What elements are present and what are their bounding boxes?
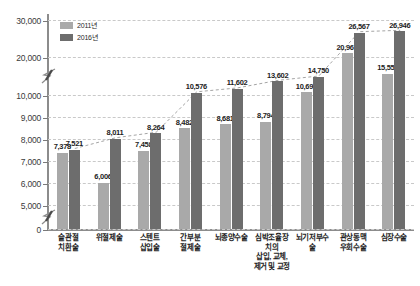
- x-axis-label: 스텐트삽입술: [129, 233, 170, 283]
- x-axis-label: 슬관절치환술: [48, 233, 89, 283]
- x-axis-label: 위절제술: [89, 233, 130, 283]
- bar-group: 10,69314,750: [292, 14, 333, 229]
- bar-2016: 26,567: [354, 33, 365, 229]
- bar-group: 20,96326,567: [333, 14, 374, 229]
- legend: 2011년 2016년: [56, 17, 103, 45]
- bar-group: 8,48210,576: [170, 14, 211, 229]
- bar-2016: 10,576: [191, 93, 202, 229]
- x-axis-label: 관상동맥우회수술: [333, 233, 374, 283]
- x-axis-label: 심장수술: [373, 233, 414, 283]
- x-axis-label: 심박조율장치의삽입, 교체,제거 및 교정: [251, 233, 292, 283]
- bar-2016: 11,602: [232, 89, 243, 229]
- y-axis-tick-label: 5,000: [21, 201, 41, 211]
- plot-area: 30,00020,00010,0009,0008,0007,0006,0005,…: [48, 14, 414, 229]
- bar-value-label: 10,576: [186, 82, 207, 91]
- legend-label-2016: 2016년: [77, 32, 98, 42]
- bar-value-label: 11,602: [227, 78, 248, 87]
- y-axis-tick-label: 6,000: [21, 179, 41, 189]
- bar-value-label: 8,011: [107, 128, 124, 137]
- bar-2016: 7,521: [69, 150, 80, 229]
- bar-2016: 13,602: [272, 81, 283, 229]
- y-axis-tick-label: 9,000: [21, 113, 41, 123]
- legend-item-2011: 2011년: [60, 20, 98, 30]
- legend-item-2016: 2016년: [60, 32, 98, 42]
- bar-value-label: 13,602: [267, 71, 288, 80]
- legend-label-2011: 2011년: [77, 20, 97, 30]
- bar-group: 7,4588,264: [129, 14, 170, 229]
- y-axis-tick-label: 20,000: [16, 53, 41, 63]
- bar-value-label: 7,521: [66, 139, 83, 148]
- x-axis-label: 간부분절제술: [170, 233, 211, 283]
- y-axis-tick-label: 10,000: [16, 91, 41, 101]
- bar-2011: 7,378: [57, 153, 68, 229]
- bar-value-label: 14,750: [308, 66, 329, 75]
- legend-swatch-2011: [60, 22, 73, 29]
- bar-group: 6,0068,011: [89, 14, 130, 229]
- bar-2011: 20,963: [342, 53, 353, 229]
- x-axis-labels: 슬관절치환술위절제술스텐트삽입술간부분절제술뇌종양수술심박조율장치의삽입, 교체…: [48, 233, 414, 283]
- bar-2011: 15,557: [382, 74, 393, 229]
- legend-swatch-2016: [60, 34, 73, 41]
- axis-break-icon: [41, 208, 57, 226]
- axis-break-icon: [41, 67, 57, 85]
- y-axis-tick: [43, 230, 48, 231]
- gridline: 0: [48, 229, 414, 230]
- bar-chart: 30,00020,00010,0009,0008,0007,0006,0005,…: [0, 0, 420, 286]
- bar-2011: 10,693: [301, 92, 312, 229]
- bar-value-label: 26,567: [348, 22, 369, 31]
- bar-2011: 7,458: [138, 151, 149, 229]
- bar-2016: 8,264: [150, 133, 161, 229]
- bar-group: 8,79413,602: [251, 14, 292, 229]
- bar-group: 15,55726,946: [373, 14, 414, 229]
- bar-2016: 8,011: [110, 139, 121, 229]
- y-axis-tick-label: 0: [36, 225, 41, 235]
- bar-2016: 26,946: [394, 31, 405, 229]
- bar-2011: 8,482: [179, 128, 190, 229]
- bar-2011: 8,794: [260, 122, 271, 229]
- bar-value-label: 26,946: [389, 21, 410, 30]
- bar-2016: 14,750: [313, 77, 324, 229]
- bar-groups: 7,3787,5216,0068,0117,4588,2648,48210,57…: [48, 14, 414, 229]
- bar-group: 7,3787,521: [48, 14, 89, 229]
- bar-value-label: 8,264: [147, 123, 164, 132]
- y-axis-tick-label: 7,000: [21, 157, 41, 167]
- bar-2011: 8,681: [220, 124, 231, 229]
- y-axis-tick-label: 30,000: [16, 16, 41, 26]
- x-axis-label: 뇌기저부수술: [292, 233, 333, 283]
- bar-group: 8,68111,602: [211, 14, 252, 229]
- x-axis-label: 뇌종양수술: [211, 233, 252, 283]
- bar-2011: 6,006: [98, 183, 109, 229]
- y-axis-tick-label: 8,000: [21, 135, 41, 145]
